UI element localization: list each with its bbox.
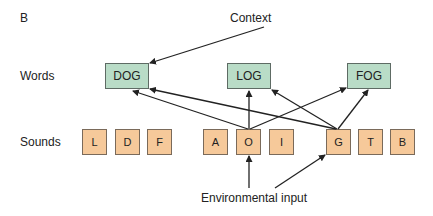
arrow-o-to-dog xyxy=(133,91,248,129)
arrow-g-to-fog xyxy=(338,90,368,129)
arrow-env-to-g xyxy=(275,155,325,188)
connection-arrows xyxy=(0,0,433,216)
arrow-context-to-dog xyxy=(150,27,264,63)
arrow-o-to-fog xyxy=(250,88,346,129)
arrow-g-to-dog xyxy=(150,89,336,129)
